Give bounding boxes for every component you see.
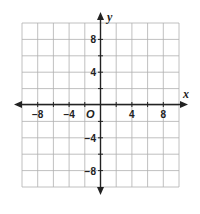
- coordinate-plane: −8−44884−4−8 x y O: [0, 0, 200, 214]
- y-axis-label: y: [105, 10, 113, 24]
- x-axis-left-arrow-icon: [14, 101, 22, 108]
- y-tick-label: −4: [85, 133, 97, 144]
- x-tick-label: −8: [32, 109, 44, 120]
- y-tick-label: 4: [90, 67, 96, 78]
- x-tick-label: 4: [129, 109, 135, 120]
- origin-label: O: [86, 108, 95, 120]
- x-axis-right-arrow-icon: [180, 101, 188, 108]
- x-tick-label: 8: [161, 109, 167, 120]
- y-tick-label: −8: [85, 166, 97, 177]
- y-axis-up-arrow-icon: [97, 12, 104, 20]
- y-axis-down-arrow-icon: [97, 187, 104, 195]
- x-axis-label: x: [182, 87, 189, 101]
- y-tick-label: 8: [90, 34, 96, 45]
- x-tick-label: −4: [63, 109, 75, 120]
